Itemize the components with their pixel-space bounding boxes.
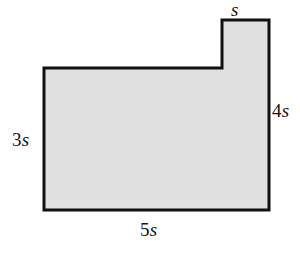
geometry-figure: s 4s 3s 5s xyxy=(0,0,300,254)
dimension-label-right: 4s xyxy=(272,101,289,120)
dimension-top-variable: s xyxy=(231,0,239,20)
dimension-right-number: 4 xyxy=(272,100,282,121)
dimension-left-variable: s xyxy=(22,129,30,150)
polygon-diagram xyxy=(0,0,300,254)
dimension-right-variable: s xyxy=(282,100,290,121)
dimension-bottom-variable: s xyxy=(150,219,158,240)
dimension-bottom-number: 5 xyxy=(140,219,150,240)
notched-rectangle-shape xyxy=(44,20,269,210)
dimension-label-bottom: 5s xyxy=(140,220,157,239)
dimension-label-top: s xyxy=(231,0,239,19)
dimension-left-number: 3 xyxy=(12,129,22,150)
dimension-label-left: 3s xyxy=(12,130,29,149)
